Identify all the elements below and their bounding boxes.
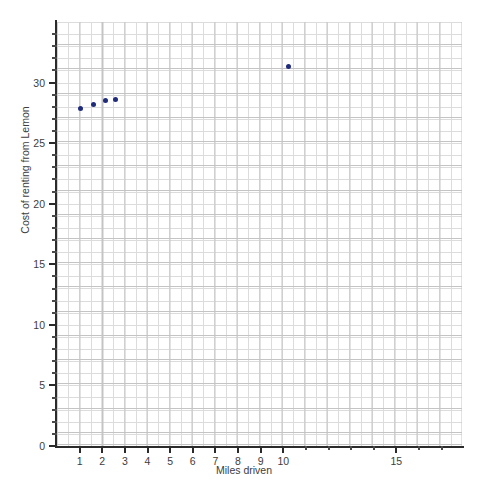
y-tick-minor (52, 336, 57, 338)
y-tick-label: 20 (33, 198, 45, 210)
x-tick-major (237, 446, 239, 453)
plot-area: 051015202530 1234567891015 (57, 22, 462, 446)
y-tick-minor (52, 397, 57, 399)
x-tick-minor (328, 446, 330, 450)
data-point (91, 102, 96, 107)
y-axis-label: Cost of renting from Lemon (18, 0, 32, 420)
x-tick-major (260, 446, 262, 453)
y-tick-minor (52, 94, 57, 96)
y-tick-minor (52, 215, 57, 217)
y-tick-major (49, 203, 57, 205)
y-tick-minor (52, 348, 57, 350)
y-tick-minor (52, 191, 57, 193)
y-tick-label: 5 (39, 379, 45, 391)
x-tick-major (124, 446, 126, 453)
y-tick-label: 0 (39, 440, 45, 452)
y-tick-minor (52, 421, 57, 423)
y-tick-minor (52, 300, 57, 302)
data-point (78, 106, 83, 111)
y-tick-minor (52, 312, 57, 314)
y-tick-minor (52, 239, 57, 241)
y-tick-major (49, 142, 57, 144)
y-tick-minor (52, 178, 57, 180)
y-tick-label: 15 (33, 258, 45, 270)
x-tick-major (79, 446, 81, 453)
y-tick-minor (52, 154, 57, 156)
y-tick-minor (52, 118, 57, 120)
y-tick-minor (52, 251, 57, 253)
y-tick-minor (52, 288, 57, 290)
x-tick-major (101, 446, 103, 453)
y-tick-major (49, 445, 57, 447)
y-tick-minor (52, 409, 57, 411)
y-tick-major (49, 263, 57, 265)
y-tick-minor (52, 360, 57, 362)
y-tick-major (49, 82, 57, 84)
x-tick-minor (373, 446, 375, 450)
y-tick-major (49, 324, 57, 326)
y-tick-label: 30 (33, 77, 45, 89)
x-tick-major (282, 446, 284, 453)
y-tick-minor (52, 69, 57, 71)
major-gridlines (57, 22, 462, 446)
x-tick-minor (441, 446, 443, 450)
x-axis-label: Miles driven (0, 464, 488, 476)
x-tick-minor (305, 446, 307, 450)
x-tick-major (214, 446, 216, 453)
y-tick-major (49, 384, 57, 386)
y-tick-minor (52, 275, 57, 277)
scatter-chart-figure: 051015202530 1234567891015 Miles driven … (0, 0, 488, 500)
y-tick-minor (52, 106, 57, 108)
x-tick-major (395, 446, 397, 453)
y-tick-minor (52, 45, 57, 47)
y-tick-label: 10 (33, 319, 45, 331)
y-tick-minor (52, 166, 57, 168)
x-tick-major (147, 446, 149, 453)
y-tick-minor (52, 433, 57, 435)
y-tick-minor (52, 227, 57, 229)
x-tick-minor (418, 446, 420, 450)
x-tick-major (169, 446, 171, 453)
y-tick-label: 25 (33, 137, 45, 149)
x-tick-major (192, 446, 194, 453)
y-tick-minor (52, 130, 57, 132)
y-tick-minor (52, 33, 57, 35)
x-tick-minor (350, 446, 352, 450)
y-tick-minor (52, 372, 57, 374)
y-tick-minor (52, 57, 57, 59)
